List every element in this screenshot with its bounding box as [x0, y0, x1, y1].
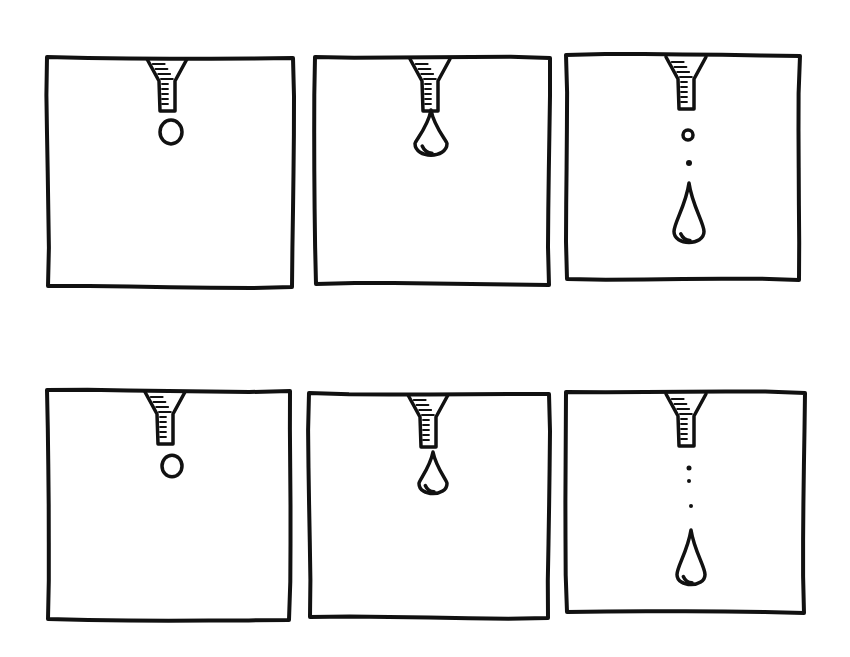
panel-frame — [47, 390, 291, 621]
drop-icon — [162, 455, 182, 477]
nozzle-icon — [666, 57, 706, 109]
nozzle-icon — [410, 59, 450, 111]
panel-frame — [314, 57, 550, 285]
panel-frame — [308, 393, 550, 619]
satellite-droplet-icon — [686, 160, 692, 166]
satellite-droplet-icon — [687, 479, 691, 483]
panel-r2p3 — [565, 392, 805, 613]
nozzle-icon — [145, 392, 185, 444]
drop-icon — [160, 120, 182, 144]
nozzle-icon — [408, 395, 448, 447]
drop-icon — [419, 452, 447, 494]
satellite-droplet-icon — [687, 466, 692, 471]
drop-icon — [677, 530, 705, 585]
satellite-droplet-icon — [689, 504, 693, 508]
satellite-droplet-icon — [683, 130, 693, 140]
panel-r2p1 — [47, 390, 291, 621]
drop-formation-diagram — [0, 0, 850, 657]
panel-r1p2 — [314, 57, 550, 285]
nozzle-icon — [147, 59, 187, 111]
panel-r1p3 — [566, 54, 800, 280]
drop-icon — [415, 110, 447, 155]
drop-icon — [674, 183, 704, 242]
diagram-canvas — [0, 0, 850, 657]
panel-r1p1 — [46, 57, 294, 288]
panel-frame — [566, 54, 800, 280]
panel-frame — [46, 57, 294, 288]
panel-r2p2 — [308, 393, 550, 619]
nozzle-icon — [666, 394, 706, 446]
